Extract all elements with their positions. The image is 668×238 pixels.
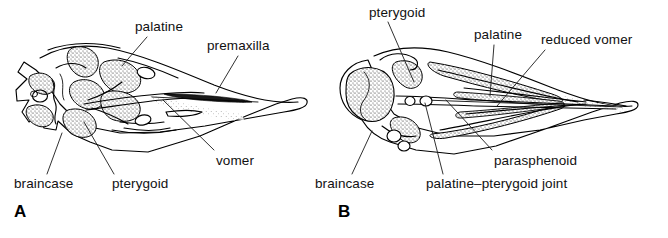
panel-b: pterygoid palatine reduced vomer parasph…: [334, 0, 668, 238]
label-vomer-a: vomer: [216, 154, 254, 168]
leader-line-braincase: [352, 131, 372, 174]
leader-line-premaxilla: [216, 56, 238, 93]
label-pterygoid-b: pterygoid: [369, 6, 425, 20]
panel-a-drawing: [0, 0, 334, 238]
label-palatine-b: palatine: [474, 28, 522, 42]
panel-a: palatine premaxilla vomer braincase pter…: [0, 0, 334, 238]
figure-skull-palate-comparison: palatine premaxilla vomer braincase pter…: [0, 0, 668, 238]
label-palatine-pterygoid-joint-b: palatine–pterygoid joint: [426, 177, 567, 191]
label-pterygoid-a: pterygoid: [112, 177, 168, 191]
label-parasphenoid-b: parasphenoid: [494, 154, 577, 168]
label-premaxilla-a: premaxilla: [207, 39, 270, 53]
panel-letter-a: A: [14, 203, 26, 220]
label-braincase-a: braincase: [14, 177, 73, 191]
label-reduced-vomer-b: reduced vomer: [541, 33, 632, 47]
leader-line-braincase: [47, 133, 62, 174]
label-braincase-b: braincase: [315, 177, 374, 191]
panel-letter-b: B: [338, 203, 350, 220]
label-palatine-a: palatine: [135, 20, 183, 34]
